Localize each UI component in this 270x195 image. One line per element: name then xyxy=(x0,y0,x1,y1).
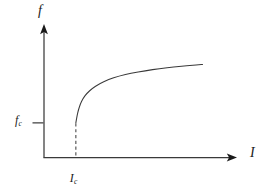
x-axis-threshold-label: Ic xyxy=(70,172,77,186)
figure-container: f I fc Ic xyxy=(0,0,270,195)
x-axis-title: I xyxy=(250,146,255,160)
x-axis-title-symbol: I xyxy=(250,145,255,160)
threshold-response-curve xyxy=(76,64,203,122)
y-axis-threshold-subscript: c xyxy=(18,119,21,128)
y-axis-title: f xyxy=(38,4,42,18)
y-axis-title-symbol: f xyxy=(38,3,42,18)
y-axis-threshold-label: fc xyxy=(15,114,22,128)
chart-canvas xyxy=(0,0,270,195)
x-axis-threshold-subscript: c xyxy=(74,177,77,186)
